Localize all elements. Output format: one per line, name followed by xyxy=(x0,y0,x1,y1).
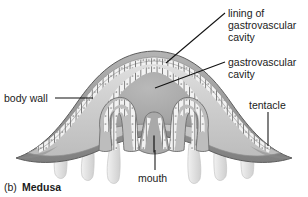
medusa-diagram-svg: lining of gastrovascular cavity gastrova… xyxy=(0,0,308,197)
caption-letter: (b) xyxy=(4,181,17,193)
caption-title: Medusa xyxy=(22,181,61,193)
label-body-wall: body wall xyxy=(4,92,48,104)
label-mouth: mouth xyxy=(138,172,167,184)
label-tentacle: tentacle xyxy=(249,99,286,111)
medusa-figure: lining of gastrovascular cavity gastrova… xyxy=(0,0,308,197)
figure-caption: (b) Medusa xyxy=(4,181,61,193)
